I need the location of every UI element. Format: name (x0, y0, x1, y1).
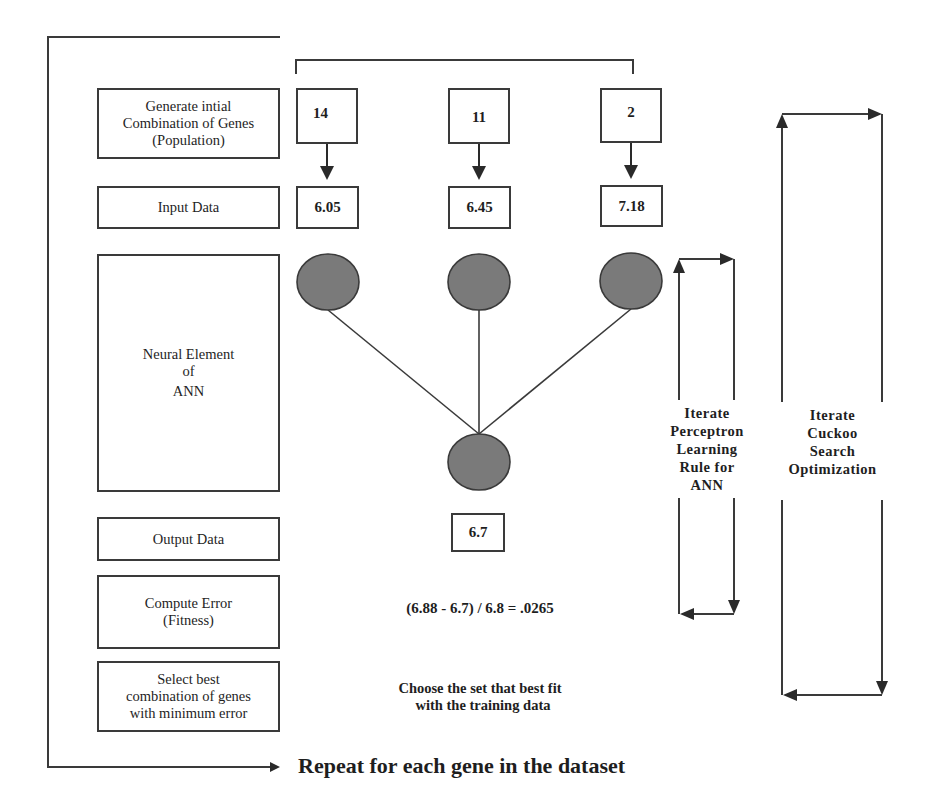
select-note-line: Choose the set that best fit (355, 680, 605, 697)
gene-value: 11 (472, 109, 486, 126)
repeat-title-text: Repeat for each gene in the dataset (298, 753, 625, 778)
input-value: 7.18 (618, 198, 644, 215)
step-compute-error: Compute Error (Fitness) (97, 575, 280, 649)
output-neuron (448, 434, 510, 490)
input-neuron-1 (297, 254, 359, 310)
input-neuron-2 (448, 254, 510, 310)
step-text-line: Combination of Genes (123, 115, 254, 132)
output-value: 6.7 (469, 524, 488, 541)
step-text-line: (Population) (123, 132, 254, 149)
select-note: Choose the set that best fit with the tr… (355, 680, 605, 714)
step-text-line: Select best (126, 671, 251, 688)
loop-label-line: ANN (652, 476, 762, 494)
loop-label-line: Cuckoo (775, 424, 890, 442)
step-generate-population: Generate intial Combination of Genes (Po… (97, 88, 280, 159)
gene-to-input-arrows (320, 142, 638, 180)
input-box-3: 7.18 (600, 185, 663, 227)
step-text-line: combination of genes (126, 688, 251, 705)
error-formula: (6.88 - 6.7) / 6.8 = .0265 (340, 600, 620, 617)
step-text-line: with minimum error (126, 705, 251, 722)
step-text-line: Neural Element (143, 346, 234, 363)
loop-label-line: Learning (652, 440, 762, 458)
loop-label-line: Optimization (775, 460, 890, 478)
step-input-data: Input Data (97, 186, 280, 229)
neural-network (297, 253, 662, 490)
input-neuron-3 (600, 253, 662, 309)
gene-box-1: 14 (296, 88, 358, 144)
cuckoo-loop-label: Iterate Cuckoo Search Optimization (775, 402, 890, 500)
step-text-line: of (143, 363, 234, 380)
gene-value: 14 (313, 105, 328, 122)
perceptron-loop-label: Iterate Perceptron Learning Rule for ANN (652, 400, 762, 498)
select-note-line: with the training data (355, 697, 605, 714)
step-text-line: Input Data (158, 199, 220, 216)
step-text-line: Generate intial (123, 98, 254, 115)
loop-label-line: Iterate (652, 404, 762, 422)
loop-label-line: Iterate (775, 406, 890, 424)
step-neural-element: Neural Element of ANN (97, 254, 280, 492)
input-value: 6.05 (314, 199, 340, 216)
step-select-best: Select best combination of genes with mi… (97, 661, 280, 732)
gene-value: 2 (627, 104, 635, 121)
error-formula-text: (6.88 - 6.7) / 6.8 = .0265 (406, 600, 554, 616)
step-text-line: Output Data (153, 531, 224, 548)
step-output-data: Output Data (97, 517, 280, 561)
input-box-2: 6.45 (448, 186, 511, 229)
output-value-box: 6.7 (451, 513, 505, 552)
repeat-title: Repeat for each gene in the dataset (298, 753, 625, 779)
gene-bracket (296, 60, 633, 74)
loop-label-line: Perceptron (652, 422, 762, 440)
step-text-line: Compute Error (145, 595, 232, 612)
input-box-1: 6.05 (296, 186, 359, 229)
input-value: 6.45 (466, 199, 492, 216)
step-text-line: ANN (143, 383, 234, 400)
gene-box-2: 11 (448, 88, 510, 144)
loop-label-line: Rule for (652, 458, 762, 476)
step-text-line: (Fitness) (145, 612, 232, 629)
gene-box-3: 2 (600, 88, 662, 143)
loop-label-line: Search (775, 442, 890, 460)
